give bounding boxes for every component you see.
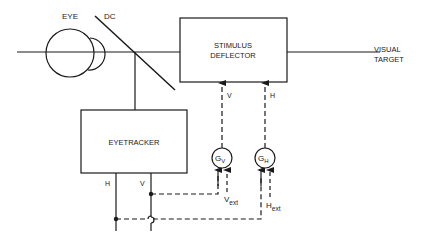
dc-label: DC: [104, 12, 116, 21]
deflector-v-label: V: [227, 92, 232, 99]
tracker-v-label: V: [140, 180, 145, 187]
deflector-h-label: H: [270, 92, 275, 99]
eyetracker-label: EYETRACKER: [109, 138, 160, 147]
hext-label: Hext: [266, 201, 281, 212]
gain-h-icon: GH: [255, 148, 275, 168]
wire-crossover: [151, 217, 154, 223]
visual-target-label-1: VISUAL: [374, 45, 401, 54]
vext-label: Vext: [224, 195, 238, 206]
h-signal-route: [116, 176, 261, 219]
stimulus-deflector-box: [180, 18, 287, 82]
tracker-h-label: H: [105, 180, 110, 187]
gain-v-icon: GV: [212, 148, 232, 168]
visual-target-label-2: TARGET: [374, 55, 404, 64]
eye-icon: [46, 29, 105, 77]
eye-label: EYE: [62, 12, 78, 21]
v-signal-route: [151, 176, 218, 194]
stimulus-label-2: DEFLECTOR: [210, 51, 256, 60]
eyetracking-diagram: EYE DC STIMULUS DEFLECTOR VISUAL TARGET …: [0, 0, 424, 243]
stimulus-label-1: STIMULUS: [214, 41, 252, 50]
